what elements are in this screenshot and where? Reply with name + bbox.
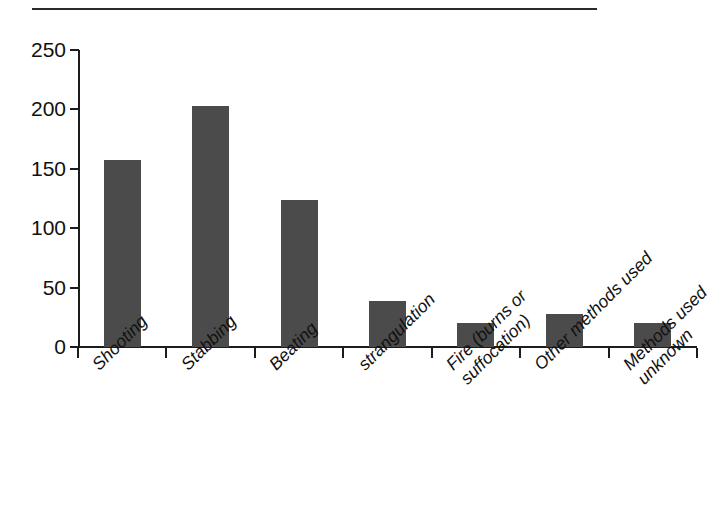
bar-chart-plot: 050100150200250 ShootingStabbingBeatings… bbox=[0, 0, 713, 528]
x-tick-label: Methods usedunknown bbox=[619, 282, 713, 388]
x-tick-mark bbox=[77, 348, 79, 358]
y-tick-label: 50 bbox=[4, 277, 66, 298]
y-tick-label: 250 bbox=[4, 39, 66, 60]
x-tick-mark bbox=[519, 348, 521, 358]
x-tick-mark bbox=[254, 348, 256, 358]
x-tick-mark bbox=[608, 348, 610, 358]
y-axis-line bbox=[78, 50, 80, 348]
x-tick-mark bbox=[696, 348, 698, 358]
x-tick-mark bbox=[431, 348, 433, 358]
y-tick-label: 0 bbox=[4, 336, 66, 357]
y-tick-label: 100 bbox=[4, 217, 66, 238]
bar bbox=[192, 106, 229, 347]
y-tick-mark bbox=[70, 108, 79, 110]
y-tick-label: 150 bbox=[4, 158, 66, 179]
x-tick-mark bbox=[165, 348, 167, 358]
x-tick-mark bbox=[342, 348, 344, 358]
y-tick-mark bbox=[70, 227, 79, 229]
y-tick-mark bbox=[70, 49, 79, 51]
y-tick-mark bbox=[70, 168, 79, 170]
y-tick-mark bbox=[70, 287, 79, 289]
y-tick-label: 200 bbox=[4, 98, 66, 119]
chart-figure: 050100150200250 ShootingStabbingBeatings… bbox=[0, 0, 713, 528]
